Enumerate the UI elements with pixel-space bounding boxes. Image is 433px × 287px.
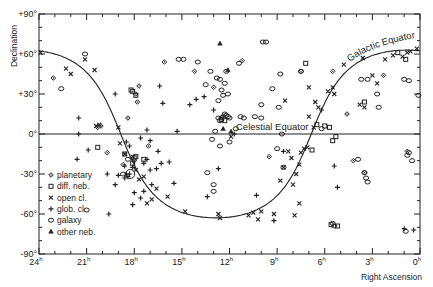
data-point (219, 88, 224, 92)
data-point (335, 185, 340, 190)
data-point (396, 51, 400, 55)
x-tick-label: 15h (172, 256, 185, 267)
legend-label: galaxy (57, 215, 82, 225)
data-point (141, 189, 146, 194)
data-point (310, 148, 314, 152)
x-tick-label: 3h (365, 256, 373, 267)
data-point (123, 152, 127, 156)
data-point (145, 201, 149, 205)
data-point (202, 94, 207, 99)
data-point (150, 197, 154, 201)
y-tick-label: +90° (18, 9, 37, 19)
data-point (307, 85, 311, 89)
data-point (192, 69, 197, 74)
data-point (319, 127, 324, 131)
legend-label: glob. cl. (57, 204, 86, 214)
data-point (365, 77, 370, 81)
y-tick-labels: +90°+60°+30°0°-30°-60°-90° (18, 9, 37, 259)
data-point (236, 61, 241, 65)
data-point (406, 79, 411, 83)
data-point (362, 100, 366, 104)
data-point (159, 161, 164, 166)
data-point (211, 189, 216, 193)
data-point (299, 151, 303, 155)
legend-item: planetary (49, 170, 93, 180)
y-tick-label: +30° (18, 89, 37, 99)
sky-distribution-chart: +90°+60°+30°0°-30°-60°-90° 24h21h18h15h1… (0, 0, 433, 287)
legend-item: diff. neb. (49, 181, 89, 191)
x-tick-label: 12h (220, 256, 233, 267)
data-point (227, 140, 232, 144)
data-point (149, 182, 154, 187)
legend-item: glob. cl. (49, 204, 87, 214)
legend-marker-circle-icon (48, 218, 53, 222)
data-point (203, 83, 208, 87)
data-point (126, 116, 131, 121)
x-tick-label: 21h (77, 256, 90, 267)
legend-label: diff. neb. (57, 181, 89, 191)
data-point (281, 149, 286, 154)
data-point (216, 212, 220, 216)
data-point (113, 92, 118, 97)
data-point (293, 213, 297, 217)
data-point (330, 69, 335, 74)
celestial-equator-label: Celestial Equator (236, 121, 308, 132)
data-point (113, 182, 118, 187)
legend-item: galaxy (48, 215, 82, 225)
x-tick-label: 0h (413, 256, 421, 267)
legend-label: open cl. (57, 193, 87, 203)
data-point (137, 84, 142, 89)
data-point (146, 144, 151, 149)
data-point (326, 89, 330, 93)
data-point (135, 100, 140, 105)
data-point (381, 73, 386, 78)
data-point (208, 69, 213, 73)
data-point (209, 137, 214, 141)
data-point (283, 99, 287, 103)
y-tick-label: -60° (20, 209, 37, 219)
x-axis-label: Right Ascension (361, 272, 422, 282)
data-point (82, 52, 87, 56)
data-point (402, 226, 407, 231)
data-point (332, 92, 336, 96)
legend-item: other neb. (49, 227, 96, 237)
data-point (205, 171, 210, 175)
data-point (69, 72, 73, 76)
data-point (171, 181, 176, 186)
y-axis-label: Declination (9, 25, 19, 67)
legend-marker-square-icon (49, 184, 53, 188)
data-point (217, 144, 222, 148)
data-point (307, 115, 311, 119)
data-point (229, 129, 234, 133)
data-point (345, 112, 350, 117)
data-point (278, 179, 282, 183)
data-point (411, 228, 416, 233)
x-tick-label: 9h (270, 256, 278, 267)
data-point (272, 212, 276, 216)
data-point (359, 77, 364, 81)
x-tick-label: 6h (318, 256, 326, 267)
data-point (138, 196, 143, 201)
legend-marker-triangle-icon (49, 229, 54, 233)
data-point (106, 212, 111, 217)
data-point (276, 105, 281, 109)
data-point (409, 159, 414, 163)
data-point (216, 166, 221, 171)
data-point (213, 129, 218, 133)
data-point (154, 166, 159, 171)
data-point (278, 72, 283, 76)
data-point (127, 144, 132, 149)
data-point (304, 61, 308, 65)
data-point (75, 157, 80, 162)
data-point (138, 136, 143, 141)
galactic-equator-label: Galactic Equator (345, 29, 416, 64)
data-point (229, 135, 233, 139)
data-point (403, 229, 408, 233)
data-point (142, 175, 146, 179)
data-point (355, 157, 360, 161)
data-point (156, 149, 161, 154)
data-point (362, 105, 366, 109)
data-point (125, 157, 130, 161)
data-point (313, 100, 317, 104)
data-point (187, 102, 192, 107)
